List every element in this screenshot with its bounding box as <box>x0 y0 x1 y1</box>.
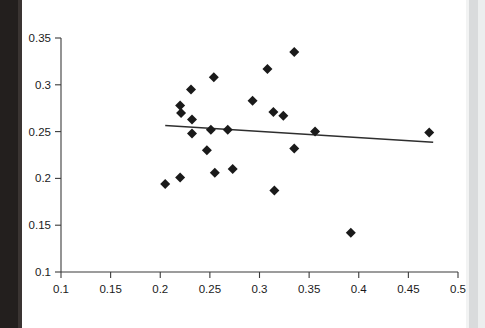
data-point <box>176 108 186 118</box>
data-point <box>210 168 220 178</box>
data-point <box>187 114 197 124</box>
x-tick-label: 0.45 <box>397 283 419 295</box>
x-axis-ticks <box>61 272 458 278</box>
y-tick-label: 0.25 <box>29 126 51 138</box>
data-point <box>202 145 212 155</box>
scatter-plot: 0.10.150.20.250.30.35 0.10.150.20.250.30… <box>0 0 485 328</box>
y-axis-ticks <box>55 38 61 272</box>
x-tick-label: 0.4 <box>351 283 368 295</box>
data-point <box>223 125 233 135</box>
trendline <box>165 126 433 143</box>
y-tick-label: 0.3 <box>35 79 51 91</box>
data-point <box>228 164 238 174</box>
data-point <box>206 125 216 135</box>
x-tick-label: 0.2 <box>152 283 168 295</box>
y-axis: 0.10.150.20.250.30.35 <box>29 32 61 278</box>
y-axis-tick-labels: 0.10.150.20.250.30.35 <box>29 32 51 278</box>
data-point <box>424 128 434 138</box>
y-tick-label: 0.2 <box>35 172 51 184</box>
y-tick-label: 0.35 <box>29 32 51 44</box>
x-axis-tick-labels: 0.10.150.20.250.30.350.40.450.5 <box>53 283 466 295</box>
data-point <box>346 228 356 238</box>
x-tick-label: 0.1 <box>53 283 69 295</box>
x-tick-label: 0.15 <box>99 283 121 295</box>
y-tick-label: 0.1 <box>35 266 51 278</box>
trendline-group <box>165 126 433 143</box>
data-point <box>160 179 170 189</box>
data-point <box>289 143 299 153</box>
x-tick-label: 0.3 <box>252 283 268 295</box>
data-point-group <box>160 47 434 238</box>
data-point <box>278 111 288 121</box>
x-tick-label: 0.25 <box>199 283 221 295</box>
data-point <box>186 84 196 94</box>
data-point <box>269 186 279 196</box>
y-tick-label: 0.15 <box>29 219 51 231</box>
data-point <box>268 107 278 117</box>
data-point <box>175 172 185 182</box>
data-point <box>209 72 219 82</box>
data-point <box>289 47 299 57</box>
scatter-chart-screenshot: 0.10.150.20.250.30.35 0.10.150.20.250.30… <box>0 0 485 328</box>
x-tick-label: 0.35 <box>298 283 320 295</box>
data-point <box>248 96 258 106</box>
x-tick-label: 0.5 <box>450 283 466 295</box>
x-axis: 0.10.150.20.250.30.350.40.450.5 <box>53 272 466 295</box>
data-point <box>262 64 272 74</box>
data-point <box>187 128 197 138</box>
